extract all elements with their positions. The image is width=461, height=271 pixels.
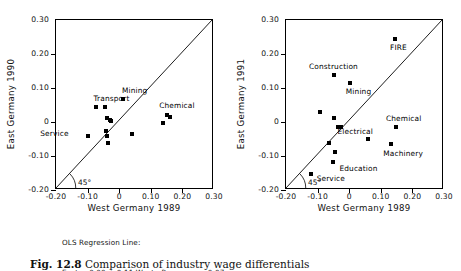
y-tick-label-right: 0.30 bbox=[261, 16, 279, 24]
data-point bbox=[109, 119, 113, 123]
data-point bbox=[332, 73, 336, 77]
data-point bbox=[393, 37, 397, 41]
data-point bbox=[86, 134, 90, 138]
data-point-label: Chemical bbox=[386, 115, 422, 122]
y-tick-label-left: -0.10 bbox=[28, 152, 49, 160]
data-point bbox=[94, 105, 98, 109]
x-tick-label-right: 0.20 bbox=[404, 193, 422, 201]
data-point bbox=[121, 97, 125, 101]
data-point bbox=[309, 172, 313, 176]
reference-line-45-right bbox=[286, 20, 442, 188]
data-point bbox=[348, 81, 352, 85]
plot-svg-right bbox=[286, 20, 442, 188]
x-tick-label-left: 0.30 bbox=[205, 193, 223, 201]
y-tick-label-right: -0.10 bbox=[258, 152, 279, 160]
chart-panel-right: East Germany 1991 -0.20-0.1000.100.200.3… bbox=[230, 0, 461, 255]
data-point-label: Chemical bbox=[159, 102, 195, 109]
y-tick-left bbox=[51, 122, 56, 123]
figure-caption: Fig. 12.8 Comparison of industry wage di… bbox=[30, 258, 450, 270]
data-point-label: Service bbox=[317, 175, 345, 182]
data-point bbox=[327, 141, 331, 145]
y-tick-label-left: 0.20 bbox=[31, 50, 49, 58]
data-point-label: Electrical bbox=[338, 128, 373, 135]
x-tick-label-right: -0.20 bbox=[276, 193, 297, 201]
data-point bbox=[105, 134, 109, 138]
data-point-label: Service bbox=[40, 130, 68, 137]
x-tick-label-left: 0 bbox=[117, 193, 122, 201]
x-tick-label-left: 0.20 bbox=[174, 193, 192, 201]
x-tick-label-right: 0.10 bbox=[372, 193, 390, 201]
x-tick-label-right: 0.30 bbox=[435, 193, 453, 201]
data-point-label: Machinery bbox=[383, 150, 423, 157]
data-point bbox=[394, 125, 398, 129]
figure-root: East Germany 1990 -0.20-0.1000.100.200.3… bbox=[0, 0, 461, 271]
y-tick-label-right: 0.20 bbox=[261, 50, 279, 58]
angle-arc-left bbox=[70, 174, 76, 188]
plot-area-left: -0.20-0.1000.100.200.30-0.20-0.1000.100.… bbox=[55, 19, 213, 189]
x-tick-label-right: -0.10 bbox=[307, 193, 328, 201]
data-point bbox=[103, 105, 107, 109]
x-tick-label-right: 0 bbox=[347, 193, 352, 201]
data-point-label: Mining bbox=[122, 87, 147, 94]
data-point bbox=[130, 132, 134, 136]
x-axis-title-right: West Germany 1989 bbox=[285, 203, 443, 213]
y-tick-right bbox=[281, 122, 286, 123]
angle-arc-right bbox=[300, 174, 306, 188]
data-point-label: Mining bbox=[346, 88, 371, 95]
data-point bbox=[106, 141, 110, 145]
y-tick-left bbox=[51, 88, 56, 89]
data-point bbox=[389, 142, 393, 146]
data-point-label: Education bbox=[339, 165, 377, 172]
y-tick-label-left: 0.30 bbox=[31, 16, 49, 24]
data-point bbox=[333, 150, 337, 154]
regression-heading-left: OLS Regression Line: bbox=[62, 238, 224, 248]
y-tick-right bbox=[281, 54, 286, 55]
data-point bbox=[104, 129, 108, 133]
reference-line-label-left: 45° bbox=[78, 179, 91, 186]
x-tick-label-left: -0.20 bbox=[46, 193, 67, 201]
data-point bbox=[331, 160, 335, 164]
x-tick-label-left: -0.10 bbox=[77, 193, 98, 201]
y-axis-title-right: East Germany 1991 bbox=[234, 19, 248, 189]
data-point bbox=[318, 110, 322, 114]
y-tick-right bbox=[281, 88, 286, 89]
y-tick-right bbox=[281, 156, 286, 157]
data-point bbox=[366, 137, 370, 141]
y-tick-left bbox=[51, 54, 56, 55]
y-tick-label-left: 0.10 bbox=[31, 84, 49, 92]
y-tick-label-right: 0 bbox=[274, 118, 279, 126]
figure-caption-label: Fig. 12.8 bbox=[30, 258, 82, 270]
y-tick-left bbox=[51, 190, 56, 191]
data-point-label: FIRE bbox=[390, 44, 407, 51]
y-tick-label-left: 0 bbox=[44, 118, 49, 126]
data-point bbox=[332, 116, 336, 120]
y-axis-title-left: East Germany 1990 bbox=[4, 19, 18, 189]
figure-caption-text: Comparison of industry wage differential… bbox=[85, 258, 309, 270]
y-tick-label-right: 0.10 bbox=[261, 84, 279, 92]
data-point-label: Construction bbox=[309, 63, 358, 70]
y-tick-left bbox=[51, 156, 56, 157]
chart-panel-left: East Germany 1990 -0.20-0.1000.100.200.3… bbox=[0, 0, 231, 255]
x-axis-title-left: West Germany 1989 bbox=[55, 203, 213, 213]
plot-area-right: -0.20-0.1000.100.200.30-0.20-0.1000.100.… bbox=[285, 19, 443, 189]
x-tick-label-left: 0.10 bbox=[142, 193, 160, 201]
data-point bbox=[161, 121, 165, 125]
data-point bbox=[168, 115, 172, 119]
y-tick-right bbox=[281, 190, 286, 191]
